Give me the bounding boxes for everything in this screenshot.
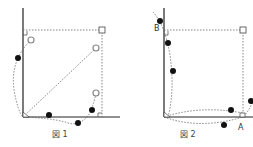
caption-figure-2: 図 2 xyxy=(180,128,196,139)
open-point xyxy=(93,90,99,96)
filled-point xyxy=(248,98,253,104)
caption-figure-1: 図 1 xyxy=(52,128,68,139)
label-b: B xyxy=(154,24,160,33)
origin-marker xyxy=(23,112,29,117)
lower-ellipse-path xyxy=(164,100,253,124)
bottom-arc-path xyxy=(23,93,96,124)
open-point xyxy=(93,45,99,51)
filled-point xyxy=(165,40,171,46)
filled-point xyxy=(75,120,81,126)
dotted-rect xyxy=(164,30,243,117)
dotted-rect xyxy=(23,30,102,117)
filled-point xyxy=(89,107,95,113)
diagonal-path xyxy=(23,48,96,117)
filled-point xyxy=(221,122,227,128)
filled-point xyxy=(46,112,52,118)
origin-marker xyxy=(164,112,170,117)
label-a: A xyxy=(238,123,243,132)
open-point xyxy=(28,37,34,43)
filled-point xyxy=(15,55,21,61)
figure-2 xyxy=(153,8,253,128)
square-marker xyxy=(99,27,105,33)
square-marker xyxy=(240,27,246,33)
point-a-marker xyxy=(240,113,245,117)
figure-1 xyxy=(13,8,120,126)
filled-point xyxy=(170,68,176,74)
diagram-canvas xyxy=(0,0,253,147)
left-arc-path xyxy=(13,40,31,117)
filled-point xyxy=(228,107,234,113)
